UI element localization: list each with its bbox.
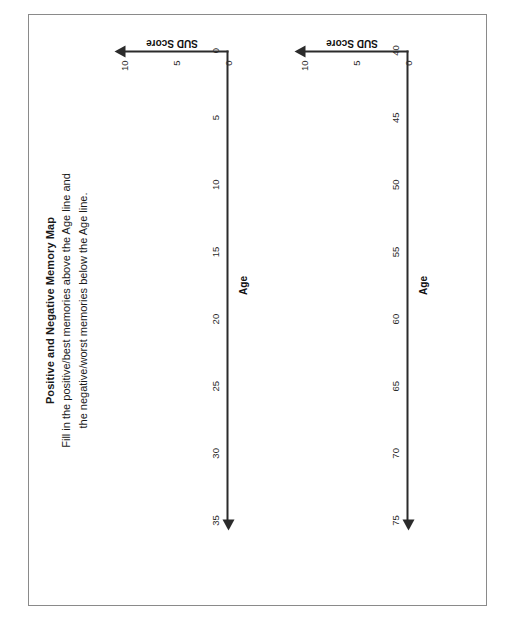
memory-map-chart-young[interactable]: 051015202530350510AgeSUD Score	[116, 14, 266, 606]
y-axis-tick-label: 0	[222, 60, 234, 65]
y-axis-tick-label: 5	[170, 60, 182, 65]
x-axis-title: Age	[417, 50, 428, 520]
x-axis-tick-label: 60	[389, 304, 400, 334]
x-axis-tick-label: 45	[389, 102, 400, 132]
page-title: Positive and Negative Memory Map	[42, 14, 56, 606]
instructions-line-2: the negative/worst memories below the Ag…	[75, 14, 90, 606]
plot-area[interactable]: 051015202530350510AgeSUD Score	[124, 50, 228, 520]
x-axis-tick-label: 30	[209, 438, 220, 468]
x-axis-tick-label: 5	[209, 102, 220, 132]
plot-area[interactable]: 40455055606570750510AgeSUD Score	[304, 50, 408, 520]
x-axis-tick-label: 55	[389, 236, 400, 266]
x-axis-tick-label: 25	[209, 371, 220, 401]
y-axis-tick-label: 0	[402, 60, 414, 65]
x-axis-tick-label: 50	[389, 169, 400, 199]
x-axis-title: Age	[237, 50, 248, 520]
x-axis-line	[406, 50, 408, 520]
rotated-page-content: Positive and Negative Memory Map Fill in…	[28, 14, 487, 606]
y-axis-tick-label: 5	[350, 60, 362, 65]
worksheet-page-frame: Positive and Negative Memory Map Fill in…	[28, 14, 487, 606]
instructions-line-1: Fill in the positive/best memories above…	[58, 14, 73, 606]
x-axis-tick-label: 75	[389, 505, 400, 535]
y-axis-title: SUD Score	[117, 38, 227, 49]
x-axis-tick-label: 20	[209, 304, 220, 334]
worksheet-heading: Positive and Negative Memory Map Fill in…	[42, 14, 90, 606]
x-axis-tick-label: 65	[389, 371, 400, 401]
y-axis-title: SUD Score	[297, 38, 407, 49]
y-axis-tick-label: 10	[118, 60, 130, 71]
worksheet-sheet: Positive and Negative Memory Map Fill in…	[28, 14, 487, 606]
x-axis-tick-label: 70	[389, 438, 400, 468]
x-axis-tick-label: 35	[209, 505, 220, 535]
x-axis-line	[226, 50, 228, 520]
x-axis-tick-label: 10	[209, 169, 220, 199]
x-axis-arrow-icon	[402, 519, 414, 530]
x-axis-tick-label: 15	[209, 236, 220, 266]
y-axis-tick-label: 10	[298, 60, 310, 71]
memory-map-chart-older[interactable]: 40455055606570750510AgeSUD Score	[296, 14, 446, 606]
x-axis-arrow-icon	[222, 519, 234, 530]
